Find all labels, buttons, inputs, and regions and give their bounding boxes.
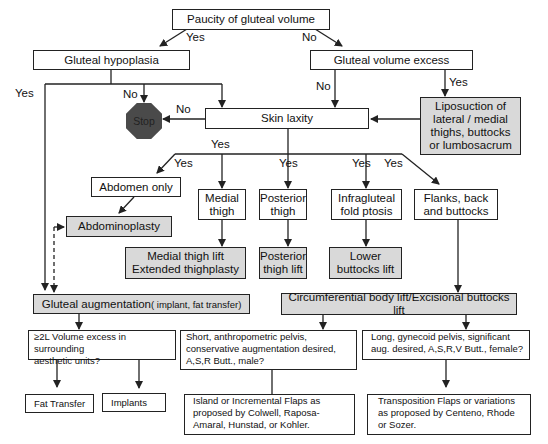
node-label-line: and buttocks [423, 205, 488, 218]
edge-label-hypoplasia-no: No [123, 88, 138, 100]
node-label-line: Lower [350, 250, 381, 263]
node-transposition-flaps: Transposition Flaps or variations as pro… [367, 394, 531, 435]
node-lower-buttocks-lift: Lower buttocks lift [329, 247, 402, 279]
node-label-line: Island or Incremental Flaps as [193, 395, 320, 407]
node-label: Gluteal augmentation [42, 298, 151, 311]
node-abdomen-only: Abdomen only [91, 177, 181, 197]
node-label-line: A,S,R Butt., male? [186, 355, 264, 367]
node-label: Abdomen only [99, 181, 173, 194]
node-gluteal-hypoplasia: Gluteal hypoplasia [33, 50, 190, 70]
node-label-line: thighs, buttocks [431, 126, 511, 139]
node-label-line: buttocks lift [337, 263, 395, 276]
node-label-line: Flanks, back [424, 192, 489, 205]
node-paucity-of-gluteal-volume: Paucity of gluteal volume [172, 9, 330, 30]
node-sublabel: ( implant, fat transfer) [151, 298, 241, 311]
edge-label-infragluteal-yes: Yes [352, 157, 371, 169]
node-gluteal-augmentation: Gluteal augmentation( implant, fat trans… [33, 294, 250, 314]
node-label: Gluteal hypoplasia [64, 54, 159, 67]
node-circumferential-body-lift: Circumferential body lift/Excisional but… [281, 293, 517, 315]
node-abdominoplasty: Abdominoplasty [66, 216, 172, 237]
node-label-line: conservative augmentation desired, [186, 343, 336, 355]
node-label-line: Short, anthropometric pelvis, [186, 331, 307, 343]
edge-label-posterior-yes: Yes [279, 157, 298, 169]
node-label: Gluteal volume excess [334, 54, 450, 67]
node-label: Paucity of gluteal volume [187, 13, 315, 26]
node-label-line: Long, gynecoid pelvis, significant [371, 331, 510, 343]
node-label-line: Extended thighplasty [132, 263, 239, 276]
node-posterior-thigh-lift: Posterior thigh lift [259, 247, 307, 279]
node-label-line: or Sozer. [378, 419, 416, 431]
node-label-line: as proposed by Centeno, Rhode [378, 407, 515, 419]
edge-label-excess-no: No [316, 80, 331, 92]
edge-label-laxity-yes: Yes [211, 138, 230, 150]
node-medial-thigh: Medial thigh [198, 189, 246, 220]
node-flanks-back-buttocks: Flanks, back and buttocks [414, 189, 498, 220]
node-label-line: ≥2L Volume excess in surrounding [34, 331, 175, 355]
edge-label-excess-yes: Yes [449, 76, 468, 88]
node-skin-laxity: Skin laxity [205, 108, 369, 129]
edge-label-hypoplasia-yes: Yes [15, 87, 34, 99]
node-label: Skin laxity [261, 112, 313, 125]
node-label: Circumferential body lift/Excisional but… [282, 291, 516, 317]
node-label-line: fold ptosis [341, 205, 393, 218]
node-label: Fat Transfer [34, 398, 85, 410]
node-label-line: Posterior [260, 250, 306, 263]
node-label-line: proposed by Colwell, Raposa- [193, 407, 320, 419]
node-gluteal-volume-excess: Gluteal volume excess [310, 50, 473, 70]
node-label-line: thigh [210, 205, 235, 218]
node-label-line: Infragluteal [338, 192, 395, 205]
node-infragluteal-fold-ptosis: Infragluteal fold ptosis [331, 189, 402, 220]
node-label-line: thigh [271, 205, 296, 218]
edge-label-flanks-yes: Yes [384, 157, 403, 169]
node-label-line: lateral / medial [433, 113, 508, 126]
node-label-line: or lumbosacrum [429, 139, 511, 152]
node-posterior-thigh: Posterior thigh [259, 189, 307, 220]
edge-label-paucity-no: No [302, 31, 317, 43]
node-label-line: thigh lift [263, 263, 303, 276]
edge-label-abdomen-yes: Yes [174, 157, 193, 169]
node-medial-thigh-lift: Medial thigh lift Extended thighplasty [125, 247, 246, 279]
node-volume-excess-question: ≥2L Volume excess in surrounding aesthet… [28, 330, 176, 360]
node-label-line: Medial thigh lift [147, 250, 224, 263]
edge-label-laxity-no: No [176, 103, 191, 115]
node-label-line: Liposuction of [435, 100, 506, 113]
node-label-line: Amaral, Hunstad, or Kohler. [193, 419, 310, 431]
node-implants: Implants [102, 393, 166, 412]
node-label: Implants [111, 397, 147, 409]
node-label-line: Posterior [260, 192, 306, 205]
node-fat-transfer: Fat Transfer [25, 394, 94, 413]
node-short-pelvis-question: Short, anthropometric pelvis, conservati… [180, 330, 357, 370]
edge-label-paucity-yes: Yes [186, 31, 205, 43]
node-label-line: aug. desired, A,S,R,V Butt., female? [371, 343, 523, 355]
node-label-line: Medial [205, 192, 239, 205]
node-label-line: aesthetic units? [34, 355, 100, 367]
stop-label: Stop [133, 115, 155, 127]
node-liposuction: Liposuction of lateral / medial thighs, … [420, 97, 521, 155]
node-label-line: Transposition Flaps or variations [378, 395, 515, 407]
node-label: Abdominoplasty [78, 220, 160, 233]
node-long-pelvis-question: Long, gynecoid pelvis, significant aug. … [362, 330, 530, 360]
node-island-flaps: Island or Incremental Flaps as proposed … [184, 394, 355, 435]
